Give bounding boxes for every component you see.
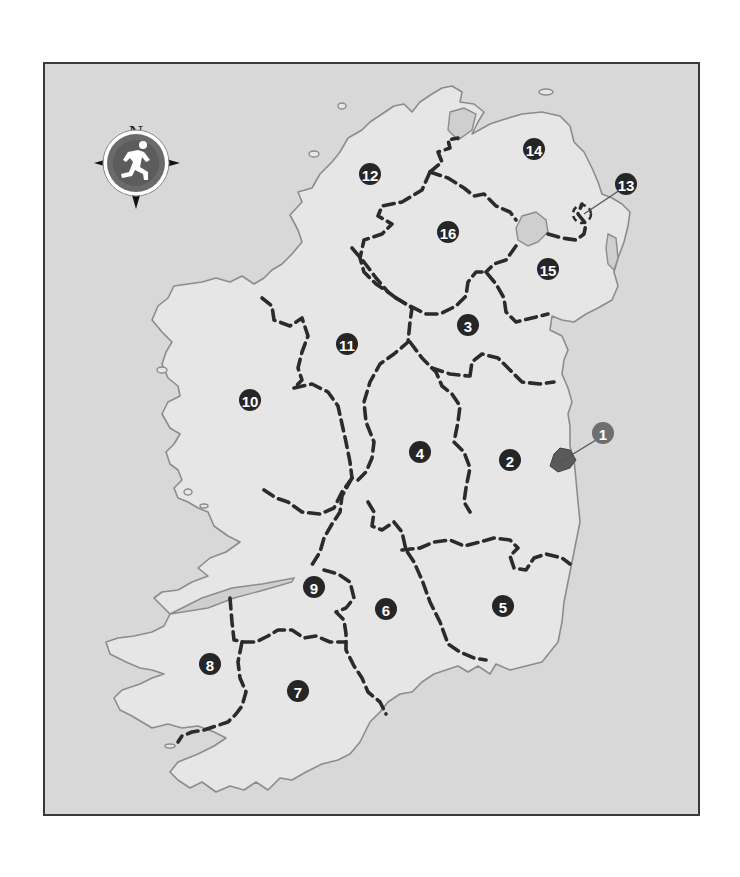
region-marker-8: 8 <box>199 653 221 675</box>
region-number: 11 <box>339 337 355 354</box>
region-number: 9 <box>310 580 318 597</box>
ireland-map: N 12345678910111213141516 <box>45 64 700 816</box>
region-number: 2 <box>506 453 514 470</box>
region-number: 16 <box>440 225 457 242</box>
ireland-landmass <box>106 86 630 792</box>
island <box>165 744 175 748</box>
region-marker-7: 7 <box>287 680 309 702</box>
region-number: 13 <box>618 177 635 194</box>
region-marker-16: 16 <box>437 221 459 243</box>
region-marker-2: 2 <box>499 449 521 471</box>
region-number: 3 <box>464 318 472 335</box>
region-marker-5: 5 <box>492 595 514 617</box>
region-number: 6 <box>382 602 390 619</box>
region-marker-4: 4 <box>409 441 431 463</box>
region-number: 15 <box>540 262 557 279</box>
strangford-lough <box>606 234 618 270</box>
region-number: 4 <box>416 445 425 462</box>
region-marker-6: 6 <box>375 598 397 620</box>
region-number: 10 <box>242 393 259 410</box>
region-marker-13: 13 <box>615 173 637 195</box>
region-number: 7 <box>294 684 302 701</box>
region-number: 12 <box>362 167 379 184</box>
region-marker-3: 3 <box>457 314 479 336</box>
island <box>338 103 346 109</box>
region-marker-14: 14 <box>523 138 545 160</box>
region-marker-9: 9 <box>303 576 325 598</box>
region-number: 5 <box>499 599 507 616</box>
region-marker-1: 1 <box>592 422 614 444</box>
island <box>309 151 319 157</box>
region-marker-11: 11 <box>336 333 358 355</box>
island <box>539 89 553 95</box>
region-marker-12: 12 <box>359 163 381 185</box>
region-number: 8 <box>206 657 214 674</box>
region-marker-10: 10 <box>239 389 261 411</box>
region-number: 1 <box>599 426 607 443</box>
region-number: 14 <box>526 142 543 159</box>
map-frame: N 12345678910111213141516 <box>43 62 700 816</box>
region-marker-15: 15 <box>537 258 559 280</box>
compass-rose: N <box>94 122 180 209</box>
island <box>200 504 208 508</box>
island <box>157 367 167 373</box>
island <box>184 489 192 495</box>
